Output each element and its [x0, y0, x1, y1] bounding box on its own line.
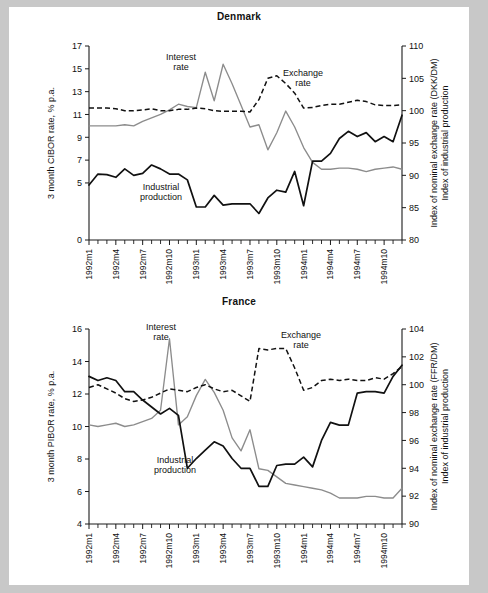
- right-axis-tick-label: 100: [409, 106, 424, 116]
- annotation-exchange-rate-line1: Exchange: [281, 330, 321, 340]
- x-axis-tick-label: 1993m10: [272, 533, 282, 569]
- series-line-exchange-rate: [89, 76, 402, 112]
- x-axis-tick-label: 1993m4: [218, 533, 228, 564]
- chart-panel-france: France 468101214169092949698100102104199…: [9, 296, 469, 585]
- right-axis-title-group-2: Index of industrial production: [440, 369, 450, 484]
- x-axis-tick-label: 1994m7: [352, 533, 362, 564]
- left-axis-tick-label: 7: [77, 155, 82, 165]
- right-axis-tick-label: 104: [409, 324, 424, 334]
- right-axis-tick-label: 102: [409, 352, 424, 362]
- paper-page: Denmark 05791113151780859095100105110199…: [9, 7, 469, 585]
- annotation-interest-rate-line2: rate: [153, 332, 169, 342]
- x-axis-tick-label: 1992m4: [111, 533, 121, 564]
- left-axis-tick-label: 9: [77, 133, 82, 143]
- x-axis-tick-label-group: 1993m10: [272, 533, 282, 569]
- x-axis-tick-label-group: 1993m1: [191, 249, 201, 280]
- left-axis-tick-label: 11: [73, 110, 82, 120]
- x-axis-tick-label: 1994m1: [299, 533, 309, 564]
- x-axis-tick-label: 1992m10: [164, 533, 174, 569]
- annotation-industrial-production-line1: Industrial: [157, 455, 194, 465]
- annotation-industrial-production-line2: production: [140, 192, 182, 202]
- left-axis-title-group: 3 month PIBOR rate, % p.a.: [46, 371, 56, 483]
- right-axis-tick-label: 80: [409, 235, 419, 245]
- x-axis-tick-label: 1994m1: [299, 249, 309, 280]
- x-axis-tick-label: 1993m1: [191, 249, 201, 280]
- chart-svg-france: 4681012141690929496981001021041992m11992…: [9, 296, 469, 585]
- left-axis-tick-label: 17: [72, 41, 82, 51]
- x-axis-tick-label: 1994m4: [325, 533, 335, 564]
- chart-title-france: France: [9, 296, 469, 307]
- right-axis-title-line2: Index of industrial production: [440, 85, 450, 200]
- left-axis-title-group: 3 month CIBOR rate, % p.a.: [46, 87, 56, 199]
- right-axis-tick-label: 110: [409, 41, 423, 51]
- series-line-industrial-production: [89, 365, 402, 486]
- right-axis-tick-label: 95: [409, 138, 419, 148]
- series-line-industrial-production: [89, 115, 402, 213]
- series-line-interest-rate: [89, 339, 402, 498]
- x-axis-tick-label-group: 1994m1: [299, 249, 309, 280]
- left-axis-tick-label: 13: [72, 87, 82, 97]
- x-axis-tick-label-group: 1993m10: [272, 249, 282, 285]
- left-axis-tick-label: 16: [72, 324, 82, 334]
- left-axis-tick-label: 12: [72, 389, 82, 399]
- x-axis-tick-label: 1992m10: [164, 249, 174, 285]
- x-axis-tick-label: 1993m4: [218, 249, 228, 280]
- x-axis-tick-label: 1994m10: [379, 533, 389, 569]
- x-axis-tick-label: 1993m7: [245, 533, 255, 564]
- x-axis-tick-label-group: 1993m4: [218, 249, 228, 280]
- x-axis-tick-label-group: 1994m10: [379, 533, 389, 569]
- annotation-industrial-production-line1: Industrial: [143, 182, 180, 192]
- x-axis-tick-label-group: 1993m4: [218, 533, 228, 564]
- x-axis-tick-label-group: 1992m4: [111, 533, 121, 564]
- x-axis-tick-label-group: 1994m7: [352, 249, 362, 280]
- chart-svg-denmark: 057911131517808590951001051101992m11992m…: [9, 7, 469, 296]
- x-axis-tick-label-group: 1992m10: [164, 533, 174, 569]
- x-axis-tick-label-group: 1992m7: [138, 533, 148, 564]
- x-axis-tick-label-group: 1994m10: [379, 249, 389, 285]
- right-axis-tick-label: 98: [409, 408, 419, 418]
- x-axis-tick-label-group: 1992m1: [84, 249, 94, 280]
- series-line-interest-rate: [89, 64, 402, 171]
- left-axis-tick-label: 5: [77, 178, 82, 188]
- right-axis-tick-label: 94: [409, 464, 419, 474]
- right-axis-tick-label: 85: [409, 203, 419, 213]
- left-axis-tick-label: 15: [72, 64, 82, 74]
- x-axis-tick-label: 1994m4: [325, 249, 335, 280]
- left-axis-tick-label: 0: [77, 235, 82, 245]
- left-axis-tick-label: 10: [72, 422, 82, 432]
- x-axis-tick-label: 1994m10: [379, 249, 389, 285]
- x-axis-tick-label-group: 1994m4: [325, 249, 335, 280]
- x-axis-tick-label-group: 1993m7: [245, 533, 255, 564]
- left-axis-title: 3 month PIBOR rate, % p.a.: [46, 371, 56, 483]
- annotation-interest-rate-line2: rate: [173, 62, 189, 72]
- chart-title-denmark: Denmark: [9, 11, 469, 22]
- right-axis-title-line2: Index of industrial production: [440, 369, 450, 484]
- x-axis-tick-label: 1992m7: [138, 249, 148, 280]
- annotation-exchange-rate-line2: rate: [295, 78, 311, 88]
- right-axis-title-group-1: Index of nominal exchange rate (DKK/DM): [429, 58, 439, 227]
- annotation-interest-rate-line1: Interest: [166, 52, 197, 62]
- x-axis-tick-label: 1993m7: [245, 249, 255, 280]
- x-axis-tick-label: 1994m7: [352, 249, 362, 280]
- right-axis-tick-label: 90: [409, 171, 419, 181]
- right-axis-tick-label: 105: [409, 74, 424, 84]
- x-axis-tick-label: 1993m1: [191, 533, 201, 564]
- right-axis-tick-label: 90: [409, 519, 419, 529]
- x-axis-tick-label-group: 1994m1: [299, 533, 309, 564]
- x-axis-tick-label-group: 1992m10: [164, 249, 174, 285]
- left-axis-tick-label: 4: [77, 519, 82, 529]
- x-axis-tick-label-group: 1992m1: [84, 533, 94, 564]
- annotation-interest-rate-line1: Interest: [146, 322, 177, 332]
- left-axis-tick-label: 6: [77, 487, 82, 497]
- right-axis-tick-label: 92: [409, 491, 419, 501]
- right-axis-title-line1: Index of nominal exchange rate (DKK/DM): [429, 58, 439, 227]
- x-axis-tick-label-group: 1992m4: [111, 249, 121, 280]
- right-axis-title-group-2: Index of industrial production: [440, 85, 450, 200]
- x-axis-tick-label-group: 1993m7: [245, 249, 255, 280]
- x-axis-tick-label-group: 1993m1: [191, 533, 201, 564]
- annotation-exchange-rate-line2: rate: [293, 340, 309, 350]
- x-axis-tick-label: 1992m7: [138, 533, 148, 564]
- right-axis-title-group-1: Index of nominal exchange rate (FFR/DM): [429, 342, 439, 510]
- left-axis-title: 3 month CIBOR rate, % p.a.: [46, 87, 56, 199]
- x-axis-tick-label: 1992m1: [84, 249, 94, 280]
